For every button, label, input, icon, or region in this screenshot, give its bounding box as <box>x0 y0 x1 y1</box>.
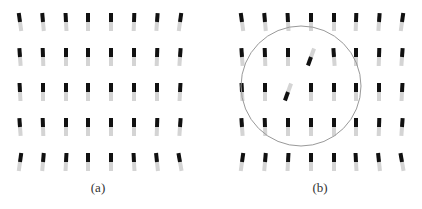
grid-element <box>309 13 313 31</box>
grid-element <box>178 83 183 101</box>
grid-element <box>64 118 68 136</box>
grid-element <box>17 48 22 66</box>
grid-element <box>64 48 68 66</box>
grid-element <box>283 83 293 101</box>
grid-element <box>399 13 405 31</box>
grid-element <box>154 13 159 31</box>
grid-element <box>306 48 316 66</box>
grid-element <box>331 48 336 66</box>
grid-element <box>17 153 23 171</box>
grid-element <box>377 48 382 66</box>
grid-element <box>109 83 113 101</box>
grid-element <box>354 83 358 101</box>
grid-element <box>40 153 46 171</box>
grid-element <box>41 48 46 66</box>
grid-element <box>109 153 113 171</box>
grid-element <box>132 118 136 136</box>
grid-element <box>64 153 69 171</box>
grid-element <box>86 118 90 136</box>
grid-element <box>177 48 182 66</box>
grid-element <box>155 48 160 66</box>
grid-element <box>239 48 244 66</box>
grid-element <box>263 48 268 66</box>
grid-element <box>155 118 160 136</box>
grid-element <box>332 153 336 171</box>
grid-element <box>239 153 245 171</box>
grid-element <box>286 118 290 136</box>
grid-element <box>239 118 244 136</box>
grid-element <box>109 13 113 31</box>
caption-b: (b) <box>300 180 340 196</box>
grid-element <box>354 153 359 171</box>
grid-element <box>286 48 290 66</box>
grid-element <box>377 83 381 101</box>
grid-element <box>239 13 245 31</box>
highlight-circle <box>241 26 361 146</box>
grid-element <box>86 13 90 31</box>
grid-element <box>309 153 313 171</box>
grid-element <box>18 83 23 101</box>
grid-element <box>41 118 46 136</box>
grid-element <box>176 153 183 171</box>
grid-element <box>354 118 358 136</box>
grid-element <box>262 13 268 31</box>
grid-element <box>17 118 22 136</box>
grid-element <box>332 83 336 101</box>
grid-element <box>64 83 68 101</box>
grid-element <box>86 153 90 171</box>
grid-element <box>109 48 113 66</box>
grid-element <box>332 13 336 31</box>
grid-element <box>286 13 291 31</box>
grid-element <box>286 153 291 171</box>
grid-element <box>132 13 137 31</box>
grid-element <box>86 83 90 101</box>
grid-element <box>309 118 313 136</box>
grid-element <box>262 153 268 171</box>
grid-element <box>399 48 404 66</box>
grid-element <box>377 118 382 136</box>
grid-element <box>309 83 313 101</box>
grid-element <box>40 13 46 31</box>
grid-element <box>41 83 45 101</box>
grid-element <box>332 118 336 136</box>
grid-element <box>154 153 160 171</box>
panel-a-grid <box>17 13 184 171</box>
panel-b-grid <box>239 13 406 171</box>
grid-element <box>263 83 267 101</box>
grid-element <box>376 153 382 171</box>
grid-element <box>64 13 69 31</box>
illusion-figure <box>0 0 422 209</box>
grid-element <box>132 48 136 66</box>
grid-element <box>376 13 381 31</box>
grid-element <box>354 13 359 31</box>
grid-element <box>177 118 182 136</box>
grid-element <box>86 48 90 66</box>
grid-element <box>132 83 136 101</box>
grid-element <box>17 13 23 31</box>
grid-element <box>109 118 113 136</box>
grid-element <box>177 13 183 31</box>
caption-a: (a) <box>78 180 118 196</box>
grid-element <box>398 153 405 171</box>
grid-element <box>400 83 405 101</box>
grid-element <box>155 83 159 101</box>
grid-element <box>132 153 137 171</box>
grid-element <box>399 118 404 136</box>
